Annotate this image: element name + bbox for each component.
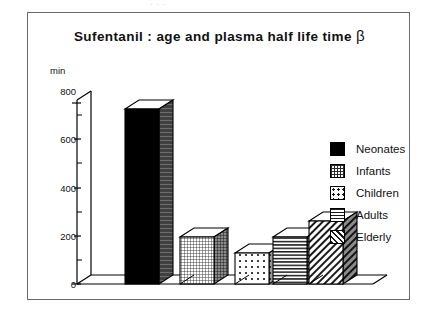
legend-label-neonates: Neonates — [356, 143, 405, 155]
cropped-text-sliver: · · · — [150, 0, 310, 6]
legend-item-infants: Infants — [330, 160, 405, 181]
legend-item-children: Children — [330, 182, 405, 203]
legend-item-neonates: Neonates — [330, 138, 405, 159]
legend-label-infants: Infants — [356, 165, 391, 177]
legend-item-elderly: Elderly — [330, 226, 405, 247]
plot-area: min 0 200 400 600 800 — [28, 13, 411, 301]
legend-swatch-children — [330, 186, 345, 200]
legend-swatch-infants — [330, 164, 345, 178]
figure-frame: Sufentanil : age and plasma half life ti… — [27, 12, 410, 300]
legend-label-elderly: Elderly — [356, 231, 391, 243]
legend-swatch-elderly — [330, 230, 345, 244]
legend-swatch-neonates — [330, 142, 345, 156]
bar-infants — [180, 228, 228, 284]
legend-label-adults: Adults — [356, 209, 388, 221]
legend-label-children: Children — [356, 187, 399, 199]
legend-item-adults: Adults — [330, 204, 405, 225]
legend-swatch-adults — [330, 208, 345, 222]
bar-neonates — [125, 100, 173, 284]
chart-figure: · · · Sufentanil : age and plasma half l… — [0, 0, 437, 315]
chart-legend: Neonates Infants Children Adults Elderly — [330, 138, 405, 248]
